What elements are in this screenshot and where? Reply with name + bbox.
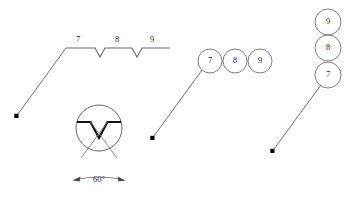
notch-leader-dot: [14, 114, 18, 118]
vertical-balloon-leader-line: [273, 85, 322, 151]
notched-edge-view: 7 8 9: [14, 34, 170, 118]
notched-edge-profile: [66, 48, 170, 57]
technical-drawing-figure: 7 8 9 60° 7 8: [0, 0, 355, 208]
detail-circle-view: 60°: [73, 105, 126, 184]
horizontal-balloon-leader-line: [153, 70, 203, 138]
edge-label-8: 8: [115, 34, 119, 44]
angle-label: 60°: [93, 174, 105, 184]
angle-arrowhead-right: [118, 176, 126, 181]
edge-label-9: 9: [150, 34, 154, 44]
detail-magnifier-circle: [76, 105, 122, 151]
balloon-label-9: 9: [258, 55, 262, 65]
notch-leader-line: [17, 48, 67, 116]
edge-label-7: 7: [76, 34, 80, 44]
horizontal-balloon-row: 7 8 9: [150, 49, 272, 140]
balloon-label-8: 8: [233, 55, 237, 65]
stack-label-9: 9: [326, 16, 330, 26]
vertical-balloon-stack: 9 8 7: [270, 9, 341, 153]
detail-notch-profile: [77, 122, 121, 138]
balloon-label-7: 7: [208, 55, 212, 65]
angle-arrowhead-left: [73, 176, 81, 181]
drawing-canvas: 7 8 9 60° 7 8: [0, 0, 355, 208]
horizontal-balloon-leader-dot: [150, 136, 154, 140]
stack-label-8: 8: [326, 42, 330, 52]
stack-label-7: 7: [326, 69, 330, 79]
vertical-balloon-leader-dot: [270, 149, 274, 153]
